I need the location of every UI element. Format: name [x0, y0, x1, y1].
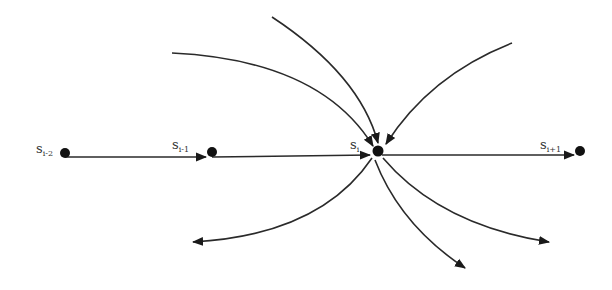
incoming-edge-top [272, 17, 378, 143]
outgoing-edge-lower-right [383, 158, 549, 242]
edge-s_i-1-to-s_i [212, 155, 370, 157]
label-s_i+1: si+1 [540, 137, 561, 154]
node-s_i-2 [60, 148, 70, 158]
label-s_i: si [350, 137, 360, 154]
label-s_i-1: si-1 [172, 137, 189, 154]
outgoing-edge-lower-left [193, 158, 372, 242]
node-s_i [373, 146, 384, 157]
label-s_i-2: si-2 [36, 141, 53, 158]
incoming-edge-upper-left [172, 53, 373, 146]
node-s_i+1 [575, 146, 585, 156]
outgoing-edge-bottom [375, 160, 465, 268]
state-diagram: si-2 si-1 si si+1 [0, 0, 612, 290]
incoming-edge-upper-right [386, 43, 512, 144]
node-s_i-1 [207, 147, 217, 157]
